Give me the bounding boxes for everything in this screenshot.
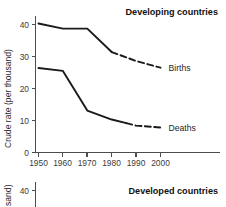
y-axis-title: Crude rate (per thousand) [3, 49, 13, 148]
x-tick-label-1980: 1980 [102, 158, 121, 168]
y-tick-label-40: 40 [20, 20, 30, 30]
y-tick-label-30: 30 [20, 52, 30, 62]
developing-countries-chart: Crude rate (per thousand) Developing cou… [0, 0, 226, 168]
series-label-deaths: Deaths [169, 123, 196, 133]
x-tick-label-2000: 2000 [151, 158, 170, 168]
y-axis-ticks: 0 10 20 30 40 [20, 20, 36, 158]
x-tick-label-1950: 1950 [29, 158, 48, 168]
x-tick-label-1990: 1990 [127, 158, 146, 168]
x-tick-label-1960: 1960 [53, 158, 72, 168]
developed-countries-chart: sand) Developed countries 40 [0, 168, 226, 207]
developed-countries-plot: sand) Developed countries 40 [0, 168, 226, 207]
y-tick-label-0: 0 [24, 148, 29, 158]
crude-rate-figure: Crude rate (per thousand) Developing cou… [0, 0, 226, 207]
panel-title-developing: Developing countries [126, 7, 218, 17]
deaths-line-dashed [126, 123, 160, 127]
x-axis-ticks: 1950 1960 1970 1980 1990 2000 [29, 153, 170, 169]
y-tick-label-40-bottom: 40 [20, 186, 30, 196]
x-tick-label-1970: 1970 [78, 158, 97, 168]
series-label-births: Births [169, 63, 191, 73]
developing-countries-plot: Crude rate (per thousand) Developing cou… [0, 0, 226, 168]
deaths-line-solid [39, 68, 127, 123]
panel-title-developed: Developed countries [129, 186, 218, 196]
births-line-dashed [112, 52, 161, 68]
y-tick-label-20: 20 [20, 84, 30, 94]
y-tick-label-10: 10 [20, 116, 30, 126]
births-line-solid [39, 24, 112, 52]
y-axis-title-partial: sand) [3, 184, 13, 206]
